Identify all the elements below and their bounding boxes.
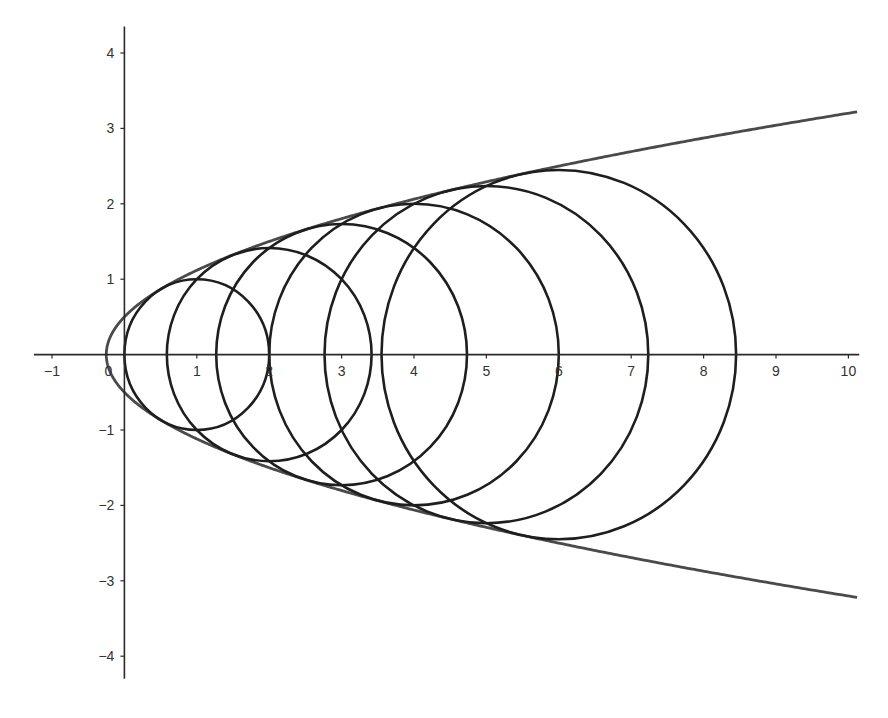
y-tick-label: −1 xyxy=(98,422,114,438)
y-axis: 4321−1−2−3−4 xyxy=(98,27,124,679)
y-tick-label: 2 xyxy=(107,196,115,212)
y-tick-label: 1 xyxy=(107,271,115,287)
y-tick-label: −2 xyxy=(98,497,114,513)
chart-canvas: −1012345678910 4321−1−2−3−4 xyxy=(0,0,888,718)
x-tick-label: 6 xyxy=(555,363,563,379)
y-tick-label: −4 xyxy=(98,648,114,664)
x-tick-label: 1 xyxy=(193,363,201,379)
x-tick-label: 4 xyxy=(410,363,418,379)
x-tick-label: 3 xyxy=(338,363,346,379)
x-tick-label: 9 xyxy=(772,363,780,379)
x-tick-label: 7 xyxy=(627,363,635,379)
y-tick-label: 3 xyxy=(107,120,115,136)
x-tick-label: 8 xyxy=(700,363,708,379)
x-tick-label: 2 xyxy=(265,363,273,379)
x-tick-label: −1 xyxy=(44,363,60,379)
x-tick-label: 10 xyxy=(841,363,857,379)
y-tick-label: −3 xyxy=(98,573,114,589)
y-tick-label: 4 xyxy=(107,45,115,61)
x-tick-label: 5 xyxy=(483,363,491,379)
origin-label: 0 xyxy=(105,363,113,379)
